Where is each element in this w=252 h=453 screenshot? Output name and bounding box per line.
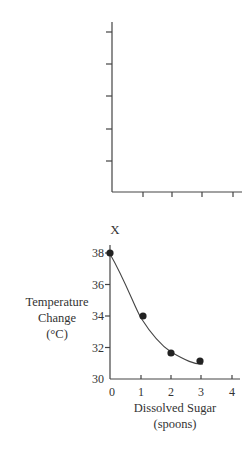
svg-text:(spoons): (spoons)	[153, 417, 196, 431]
y-tick-32: 32	[92, 341, 104, 355]
svg-text:Change: Change	[38, 311, 77, 325]
top-empty-chart	[106, 22, 242, 197]
x-tick-0: 0	[109, 385, 115, 399]
x-tick-3: 3	[198, 385, 204, 399]
chart-canvas: X 38 36 34 32 30 0 1 2 3 4	[0, 0, 252, 453]
y-tick-30: 30	[92, 372, 104, 386]
top-x-ticks	[143, 192, 233, 197]
data-points	[106, 249, 203, 364]
top-y-ticks	[106, 32, 112, 161]
data-point-1	[139, 312, 146, 319]
svg-text:Dissolved Sugar: Dissolved Sugar	[134, 401, 217, 415]
x-tick-4: 4	[229, 385, 235, 399]
x-axis-label: Dissolved Sugar (spoons)	[134, 401, 217, 431]
x-tick-2: 2	[168, 385, 174, 399]
y-tick-34: 34	[92, 309, 104, 323]
data-point-0	[106, 249, 113, 256]
trend-curve	[110, 254, 203, 364]
x-tick-1: 1	[138, 385, 144, 399]
data-point-3	[196, 357, 203, 364]
svg-text:Temperature: Temperature	[26, 295, 89, 309]
chart-title: X	[110, 222, 120, 237]
x-tick-labels: 0 1 2 3 4	[109, 385, 235, 399]
y-tick-38: 38	[92, 246, 104, 260]
y-tick-labels: 38 36 34 32 30	[92, 246, 104, 386]
data-point-2	[167, 349, 174, 356]
svg-text:(°C): (°C)	[46, 327, 68, 341]
y-ticks	[105, 253, 110, 348]
bottom-chart: X 38 36 34 32 30 0 1 2 3 4	[26, 222, 240, 431]
y-axis-label: Temperature Change (°C)	[26, 295, 89, 341]
y-tick-36: 36	[92, 278, 104, 292]
